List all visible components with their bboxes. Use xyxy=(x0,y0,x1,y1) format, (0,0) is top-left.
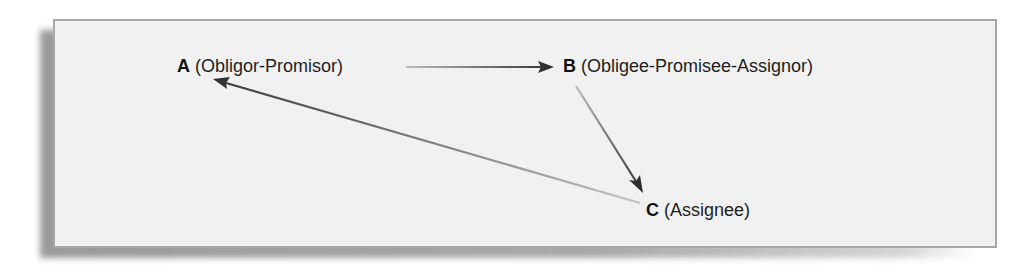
node-letter: A xyxy=(177,56,190,76)
arrow-c-to-a xyxy=(213,77,640,203)
arrowhead-icon xyxy=(629,175,643,193)
node-b-obligee-promisee-assignor: B (Obligee-Promisee-Assignor) xyxy=(563,55,813,77)
node-role: (Assignee) xyxy=(664,200,750,220)
node-c-assignee: C (Assignee) xyxy=(646,199,750,221)
node-letter: B xyxy=(563,56,576,76)
arrows-layer xyxy=(0,0,1026,275)
arrow-a-to-b xyxy=(406,61,554,73)
node-role: (Obligee-Promisee-Assignor) xyxy=(581,56,813,76)
node-letter: C xyxy=(646,200,659,220)
node-a-obligor-promisor: A (Obligor-Promisor) xyxy=(177,55,343,77)
node-role: (Obligor-Promisor) xyxy=(195,56,343,76)
arrow-b-to-c xyxy=(576,86,643,193)
